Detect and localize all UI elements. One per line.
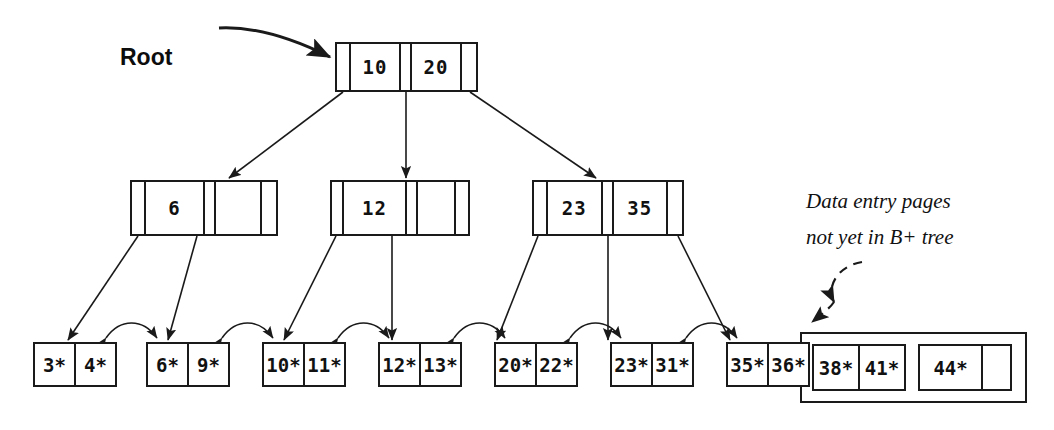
leaf-7-entry-1: 36* bbox=[769, 344, 808, 385]
edge-internal-1-to-leaf-1 bbox=[68, 236, 138, 340]
root-key-1: 20 bbox=[412, 44, 462, 90]
annotation-line-2: not yet in B+ tree bbox=[806, 218, 954, 258]
internal-1-pointer-0 bbox=[132, 182, 146, 234]
internal-node-1[interactable]: 6 bbox=[130, 180, 278, 236]
leaf-3-entry-0: 10* bbox=[264, 344, 305, 385]
leaf-sibling-link-5 bbox=[570, 323, 621, 338]
b-plus-tree-diagram: Root 10 20 6 12 23 35 3* 4* 6* 9* bbox=[0, 0, 1054, 430]
leaf-sibling-link-1 bbox=[106, 323, 157, 338]
annotation-line-1: Data entry pages bbox=[806, 182, 951, 222]
leaf-node-2[interactable]: 6* 9* bbox=[146, 342, 230, 387]
internal-node-3[interactable]: 23 35 bbox=[532, 180, 684, 236]
root-pointer-0 bbox=[337, 44, 351, 90]
internal-3-key-0: 23 bbox=[548, 182, 603, 234]
detached-1-entry-1: 41* bbox=[860, 346, 904, 389]
detached-2-entry-0: 44* bbox=[920, 346, 983, 389]
internal-2-key-0: 12 bbox=[344, 182, 407, 234]
root-pointer-1 bbox=[401, 44, 412, 90]
edge-internal-2-to-leaf-3 bbox=[284, 236, 336, 340]
leaf-6-entry-1: 31* bbox=[653, 344, 692, 385]
detached-page-1[interactable]: 38* 41* bbox=[812, 344, 906, 391]
leaf-sibling-link-3 bbox=[338, 323, 389, 338]
leaf-sibling-link-4 bbox=[454, 323, 505, 338]
leaf-5-entry-0: 20* bbox=[496, 344, 537, 385]
edge-root-to-internal-3 bbox=[470, 92, 596, 178]
edge-root-to-internal-1 bbox=[229, 92, 343, 178]
leaf-sibling-link-6 bbox=[686, 323, 737, 338]
leaf-1-entry-0: 3* bbox=[35, 344, 76, 385]
leaf-6-entry-0: 23* bbox=[612, 344, 653, 385]
leaf-node-1[interactable]: 3* 4* bbox=[33, 342, 117, 387]
leaf-2-entry-1: 9* bbox=[189, 344, 228, 385]
leaf-node-5[interactable]: 20* 22* bbox=[494, 342, 578, 387]
internal-1-key-0: 6 bbox=[146, 182, 205, 234]
internal-1-pointer-1 bbox=[205, 182, 216, 234]
edge-internal-1-to-leaf-2 bbox=[168, 236, 197, 340]
detached-1-entry-0: 38* bbox=[814, 346, 860, 389]
internal-3-key-1: 35 bbox=[614, 182, 669, 234]
internal-2-pointer-1 bbox=[407, 182, 418, 234]
internal-2-key-1 bbox=[418, 182, 456, 234]
internal-3-pointer-1 bbox=[603, 182, 614, 234]
root-key-0: 10 bbox=[351, 44, 401, 90]
leaf-7-entry-0: 35* bbox=[728, 344, 769, 385]
detached-2-entry-1 bbox=[983, 346, 1010, 389]
internal-2-pointer-0 bbox=[332, 182, 344, 234]
root-label: Root bbox=[120, 44, 172, 71]
internal-3-pointer-2 bbox=[668, 182, 682, 234]
leaf-5-entry-1: 22* bbox=[537, 344, 576, 385]
annotation-dashed-arrow bbox=[812, 262, 862, 322]
root-pointer-arrow bbox=[219, 28, 330, 57]
leaf-4-entry-1: 13* bbox=[421, 344, 460, 385]
leaf-3-entry-1: 11* bbox=[305, 344, 344, 385]
internal-1-pointer-2 bbox=[262, 182, 276, 234]
internal-2-pointer-2 bbox=[456, 182, 468, 234]
internal-3-pointer-0 bbox=[534, 182, 548, 234]
leaf-2-entry-0: 6* bbox=[148, 344, 189, 385]
root-pointer-2 bbox=[462, 44, 476, 90]
leaf-node-6[interactable]: 23* 31* bbox=[610, 342, 694, 387]
leaf-sibling-link-2 bbox=[222, 323, 273, 338]
leaf-node-4[interactable]: 12* 13* bbox=[378, 342, 462, 387]
leaf-4-entry-0: 12* bbox=[380, 344, 421, 385]
leaf-node-3[interactable]: 10* 11* bbox=[262, 342, 346, 387]
leaf-node-7[interactable]: 35* 36* bbox=[726, 342, 810, 387]
detached-page-2[interactable]: 44* bbox=[918, 344, 1012, 391]
internal-node-2[interactable]: 12 bbox=[330, 180, 470, 236]
leaf-1-entry-1: 4* bbox=[76, 344, 115, 385]
internal-1-key-1 bbox=[216, 182, 262, 234]
edge-internal-3-to-leaf-5 bbox=[497, 236, 538, 340]
root-node[interactable]: 10 20 bbox=[335, 42, 478, 92]
